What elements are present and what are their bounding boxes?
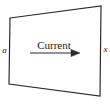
current-flow-diagram: Current a x bbox=[0, 0, 110, 105]
right-edge-label-x: x bbox=[103, 44, 108, 54]
diagram-canvas: Current a x bbox=[0, 0, 110, 105]
conductor-slab-shape bbox=[9, 6, 101, 96]
current-label: Current bbox=[37, 39, 71, 51]
left-edge-label-a: a bbox=[2, 45, 7, 55]
